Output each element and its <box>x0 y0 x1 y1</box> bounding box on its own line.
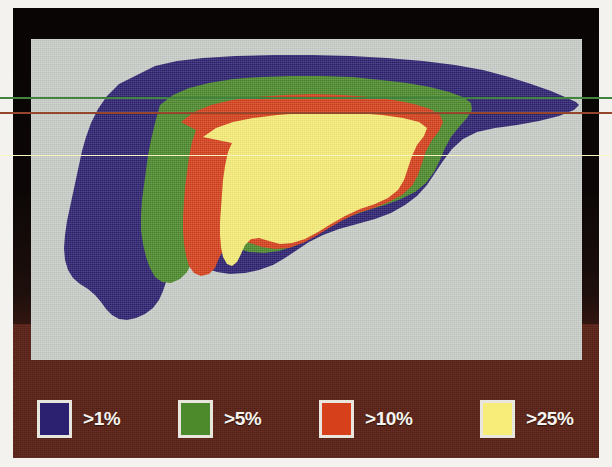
legend-item-1pct: >1% <box>37 400 120 438</box>
legend: >1% >5% >10% >25% <box>13 388 599 450</box>
screenshot-root: >1% >5% >10% >25% <box>0 0 612 467</box>
legend-item-5pct: >5% <box>178 400 261 438</box>
legend-label-10pct: >10% <box>365 408 413 430</box>
legend-item-25pct: >25% <box>480 400 574 438</box>
legend-label-1pct: >1% <box>83 408 120 430</box>
legend-swatch-1pct <box>37 400 72 438</box>
legend-item-10pct: >10% <box>319 400 413 438</box>
map-plate <box>31 39 582 360</box>
legend-swatch-25pct <box>480 400 515 438</box>
legend-swatch-5pct <box>178 400 213 438</box>
legend-label-5pct: >5% <box>224 408 261 430</box>
map-band-25pct <box>203 112 427 266</box>
contour-map <box>31 39 582 360</box>
legend-swatch-10pct <box>319 400 354 438</box>
legend-label-25pct: >25% <box>526 408 574 430</box>
